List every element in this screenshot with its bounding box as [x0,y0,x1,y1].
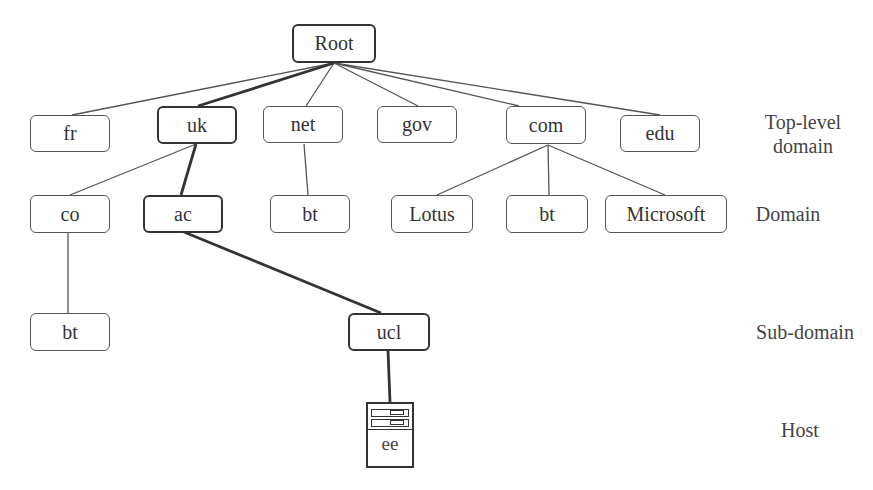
node-co: co [30,195,110,233]
level-label-line1: Top-level [748,110,858,134]
node-net-bt: bt [270,195,350,233]
node-lotus: Lotus [391,195,473,233]
edge-uk-ac [181,144,196,195]
drive-led-icon [390,420,404,425]
node-com: com [506,106,586,144]
level-label-top-level-domain: Top-level domain [748,110,858,158]
node-net: net [263,106,343,143]
node-fr: fr [30,115,110,152]
node-uk: uk [157,106,237,144]
server-divider [368,429,412,430]
level-label-line2: domain [748,134,858,158]
node-ucl: ucl [348,313,430,351]
host-label-ee: ee [368,433,412,455]
level-label-sub-domain: Sub-domain [745,320,865,344]
edge-ac-ucl [184,232,381,313]
node-microsoft: Microsoft [605,195,727,233]
node-co-bt: bt [30,313,110,351]
drive-led-icon [390,410,404,415]
edge-root-uk [198,63,334,106]
node-edu: edu [620,115,700,152]
node-ac: ac [143,195,223,233]
edge-com-microsoft [548,145,665,195]
edge-ucl-ee [388,350,390,402]
node-root: Root [292,24,376,63]
edge-net-bt [304,144,308,195]
drive-slot-icon [371,409,409,417]
drive-slot-icon [371,419,409,427]
node-gov: gov [377,106,457,143]
edge-root-com [334,63,519,106]
edge-com-bt [548,145,549,195]
level-label-host: Host [770,418,830,442]
tree-edges [0,0,873,490]
level-label-domain: Domain [748,202,828,226]
edge-com-lotus [437,145,548,195]
server-icon: ee [366,402,414,468]
node-com-bt: bt [506,195,588,233]
